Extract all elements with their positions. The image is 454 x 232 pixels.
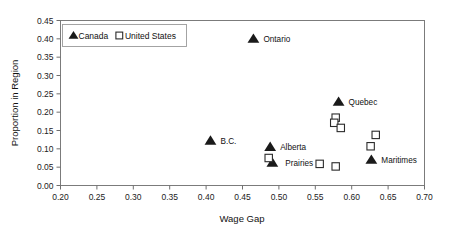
data-point-canada [333,96,345,105]
legend-label: Canada [79,31,109,41]
data-point-united-states [367,143,374,150]
legend-marker-united-states [116,32,123,39]
data-point-label: Maritimes [381,156,416,165]
data-point-canada [365,154,377,163]
y-tick-label: 0.05 [37,162,54,172]
x-axis-tick-labels: 0.200.250.300.350.400.450.500.550.600.65… [52,192,433,202]
y-axis-title: Proportion in Region [9,60,20,147]
data-point-labels: OntarioQuebecB.C.AlbertaPrairiesMaritime… [220,35,416,168]
data-point-canada [205,135,217,144]
x-tick-label: 0.65 [380,192,397,202]
data-point-canada [264,142,276,151]
data-point-label: Quebec [349,98,378,107]
data-point-canada [248,33,260,42]
data-point-united-states [337,124,344,131]
x-axis-title: Wage Gap [219,213,264,224]
x-tick-label: 0.50 [271,192,288,202]
y-tick-label: 0.00 [37,181,54,191]
data-point-united-states [316,160,323,167]
y-tick-label: 0.35 [37,52,54,62]
y-tick-label: 0.25 [37,89,54,99]
x-tick-label: 0.35 [161,192,178,202]
y-axis-ticks [57,21,61,186]
x-tick-label: 0.25 [89,192,106,202]
chart-canvas: 0.200.250.300.350.400.450.500.550.600.65… [0,0,454,232]
y-tick-label: 0.20 [37,107,54,117]
x-tick-label: 0.70 [416,192,433,202]
x-tick-label: 0.60 [343,192,360,202]
y-tick-label: 0.30 [37,71,54,81]
x-tick-label: 0.20 [52,192,69,202]
data-point-label: Ontario [263,35,290,44]
data-point-united-states [372,131,379,138]
data-point-label: Alberta [280,143,306,152]
x-tick-label: 0.40 [198,192,215,202]
data-point-label: Prairies [285,159,313,168]
x-tick-label: 0.55 [307,192,324,202]
y-axis-tick-labels: 0.000.050.100.150.200.250.300.350.400.45 [37,16,54,191]
chart-legend: CanadaUnited States [63,25,187,47]
data-point-label: B.C. [220,137,236,146]
x-tick-label: 0.45 [234,192,251,202]
data-point-united-states [332,163,339,170]
y-tick-label: 0.45 [37,16,54,26]
data-point-united-states [265,154,272,161]
legend-label: United States [125,31,176,41]
y-tick-label: 0.10 [37,144,54,154]
x-axis-ticks [61,186,425,190]
y-tick-label: 0.15 [37,126,54,136]
y-tick-label: 0.40 [37,34,54,44]
scatter-chart: 0.200.250.300.350.400.450.500.550.600.65… [0,0,454,232]
x-tick-label: 0.30 [125,192,142,202]
